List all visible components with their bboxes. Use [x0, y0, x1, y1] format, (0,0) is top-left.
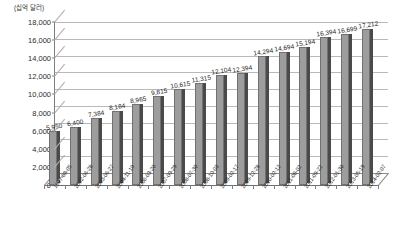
bar-side-shadow [307, 47, 310, 183]
bar-face [91, 118, 99, 185]
bar-side-shadow [370, 29, 373, 183]
bar-face [49, 131, 57, 185]
bar-value-label: 10,615 [170, 79, 191, 89]
y-axis-unit-label: (십억 달러) [14, 2, 44, 12]
bar-slot: 8,184 [107, 22, 128, 185]
bar-side-shadow [182, 89, 185, 183]
bar[interactable]: 17,212 [362, 29, 373, 185]
bar-slot: 11,315 [190, 22, 211, 185]
bar-value-label: 8,965 [129, 95, 146, 104]
bar-slot: 9,815 [148, 22, 169, 185]
perspective-depth-line [54, 10, 65, 23]
bar-slot: 12,394 [232, 22, 253, 185]
bar-face [341, 34, 349, 185]
bar[interactable]: 16,394 [320, 37, 331, 185]
bar-slot: 14,294 [253, 22, 274, 185]
bar-side-shadow [328, 37, 331, 183]
bar-value-label: 14,294 [253, 46, 274, 56]
bar-side-shadow [224, 75, 227, 183]
bar-slot: 14,694 [274, 22, 295, 185]
bar-face [132, 104, 140, 185]
bar-slot: 12,104 [211, 22, 232, 185]
bar[interactable]: 9,815 [153, 96, 164, 185]
bar-value-label: 6,400 [67, 118, 84, 127]
bar-side-shadow [120, 111, 123, 183]
bar-side-shadow [349, 34, 352, 183]
bar-slot: 7,384 [86, 22, 107, 185]
bar-side-shadow [161, 96, 164, 183]
bar-value-label: 16,699 [337, 24, 358, 34]
bar-series: 5,9506,4007,3848,1848,9659,81510,61511,3… [44, 22, 378, 185]
bar-slot: 10,615 [169, 22, 190, 185]
bar-side-shadow [140, 104, 143, 183]
bar-value-label: 16,394 [316, 27, 337, 37]
bar-value-label: 8,184 [109, 102, 126, 111]
bar-face [70, 127, 78, 185]
bar-side-shadow [203, 83, 206, 183]
bar-side-shadow [266, 56, 269, 183]
x-axis-labels: 1997-08-052002-06-282003-06-272004-11-19… [44, 186, 398, 232]
bar-side-shadow [287, 52, 290, 183]
bar-face [362, 29, 370, 185]
bar[interactable]: 10,615 [174, 89, 185, 185]
bar-side-shadow [245, 73, 248, 183]
bar-value-label: 7,384 [88, 109, 105, 118]
bar[interactable]: 8,965 [132, 104, 143, 185]
bar-face [174, 89, 182, 185]
bar-slot: 8,965 [128, 22, 149, 185]
bar-face [320, 37, 328, 185]
bar-value-label: 9,815 [150, 87, 167, 96]
bar-slot: 16,394 [315, 22, 336, 185]
plot-area: 18,00016,00014,00012,00010,0008,0006,000… [44, 22, 388, 185]
bar-slot: 15,194 [295, 22, 316, 185]
bar-value-label: 12,394 [232, 63, 253, 73]
bar[interactable]: 15,194 [299, 47, 310, 185]
bar-face [112, 111, 120, 185]
bar-value-label: 14,694 [274, 42, 295, 52]
bar-slot: 16,699 [336, 22, 357, 185]
bar-value-label: 11,315 [191, 73, 211, 83]
bar-slot: 6,400 [65, 22, 86, 185]
bar[interactable]: 16,699 [341, 34, 352, 185]
bar-face [299, 47, 307, 185]
bar-slot: 17,212 [357, 22, 378, 185]
bar[interactable]: 8,184 [112, 111, 123, 185]
bar-face [153, 96, 161, 185]
bar-chart: (십억 달러) 18,00016,00014,00012,00010,0008,… [0, 0, 398, 233]
